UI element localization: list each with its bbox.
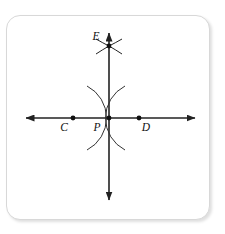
- point-dot-E: [107, 44, 112, 49]
- geometry-figure: C P D E: [0, 0, 225, 234]
- point-dot-P: [107, 116, 112, 121]
- point-label-E: E: [91, 30, 99, 42]
- point-label-P: P: [92, 121, 100, 133]
- point-dot-C: [71, 116, 76, 121]
- point-label-D: D: [141, 121, 151, 133]
- point-dot-D: [137, 116, 142, 121]
- point-label-C: C: [60, 121, 68, 133]
